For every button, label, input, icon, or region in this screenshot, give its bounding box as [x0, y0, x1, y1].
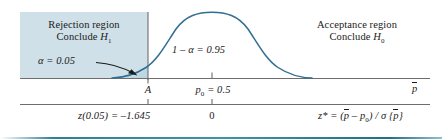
acceptance-conclude-text: Conclude [329, 31, 373, 42]
formula-p-bar-2: p [393, 110, 398, 122]
formula-lead: z* = ( [318, 110, 344, 121]
critical-point-label: A [138, 84, 158, 96]
z-critical-label: z(0.05) = –1.645 [78, 110, 150, 122]
rejection-conclude-text: Conclude [56, 31, 100, 42]
formula-minus: – [349, 110, 360, 121]
acceptance-h-symbol: H [373, 31, 381, 42]
bottom-accent-rule [0, 137, 442, 139]
acceptance-h-subscript: 0 [381, 37, 385, 45]
p-null-label: p0 = 0.5 [184, 84, 242, 98]
formula-p-bar-1: p [344, 110, 349, 122]
z-statistic-formula: z* = (p – p0) / σ {p} [318, 110, 403, 124]
formula-mid: ) / σ { [369, 110, 393, 121]
confidence-level-label: 1 – α = 0.95 [172, 44, 225, 56]
z-zero-label: 0 [203, 110, 221, 122]
rejection-h-symbol: H [100, 31, 108, 42]
p-bar-axis-label: p [412, 83, 417, 95]
rejection-region-label: Rejection region Conclude H1 [26, 19, 142, 46]
acceptance-region-line2: Conclude H0 [292, 31, 422, 45]
acceptance-region-line1: Acceptance region [292, 19, 422, 31]
rejection-region-line2: Conclude H1 [26, 31, 142, 45]
p-bar-symbol: p [412, 83, 417, 95]
hypothesis-test-figure: Rejection region Conclude H1 α = 0.05 Ac… [0, 0, 442, 140]
alpha-value-label: α = 0.05 [38, 55, 75, 67]
formula-end: } [399, 110, 403, 121]
acceptance-region-label: Acceptance region Conclude H0 [292, 19, 422, 46]
rejection-region-line1: Rejection region [26, 19, 142, 31]
p-null-value: = 0.5 [204, 84, 230, 95]
rejection-h-subscript: 1 [108, 37, 112, 45]
